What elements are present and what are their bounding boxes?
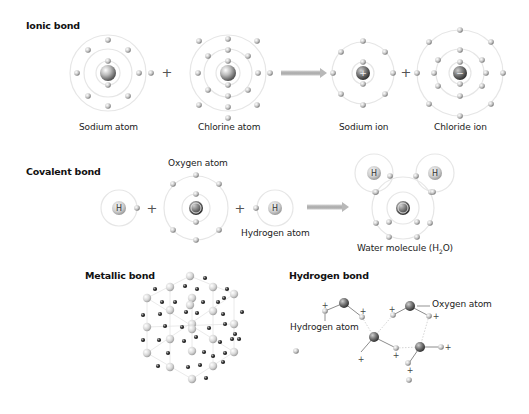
metal-ion xyxy=(209,362,217,370)
electron xyxy=(254,102,260,108)
water-molecule-label: Water molecule (H2O) xyxy=(357,243,453,255)
oxygen-atom xyxy=(369,332,379,342)
electron xyxy=(225,82,231,88)
nucleus-symbol: − xyxy=(456,68,464,78)
partial-positive-charge: + xyxy=(360,307,367,316)
hbond-hydrogen-atom-label: Hydrogen atom xyxy=(290,322,359,332)
partial-positive-charge: + xyxy=(445,343,452,352)
nucleus xyxy=(220,65,236,81)
electron xyxy=(386,234,392,240)
free-electron xyxy=(237,337,241,341)
free-electron xyxy=(202,350,206,354)
electron xyxy=(205,87,211,93)
oxygen-atom xyxy=(339,298,349,308)
water-molecule: HH xyxy=(355,154,454,240)
chloride-ion: − xyxy=(414,27,506,119)
metal-ion xyxy=(143,349,151,357)
covalent-bond-title: Covalent bond xyxy=(26,166,101,177)
electron xyxy=(338,49,344,55)
metal-ion xyxy=(166,335,174,343)
electron xyxy=(457,81,463,87)
electron xyxy=(255,70,261,76)
electron xyxy=(430,189,436,195)
electron xyxy=(435,83,441,89)
plus-sign: + xyxy=(235,201,246,216)
plus-sign: + xyxy=(147,201,158,216)
electron xyxy=(225,36,231,42)
reaction-arrow-icon xyxy=(307,202,349,212)
electron xyxy=(205,53,211,59)
free-electron xyxy=(141,338,145,342)
free-electron xyxy=(222,296,226,300)
water-label-suffix: O) xyxy=(443,243,453,253)
chlorine-atom-label: Chlorine atom xyxy=(198,122,260,132)
electron xyxy=(225,104,231,110)
electron xyxy=(85,93,91,99)
electron xyxy=(105,103,111,109)
electron xyxy=(488,101,494,107)
oxygen-atom xyxy=(415,342,425,352)
metal-ion xyxy=(143,294,151,302)
plus-sign: + xyxy=(401,65,412,80)
electron xyxy=(360,102,366,108)
electron xyxy=(426,101,432,107)
metal-ion xyxy=(209,283,217,291)
partial-positive-charge: + xyxy=(433,312,440,321)
hydrogen-atom xyxy=(438,344,444,350)
hydrogen-symbol: H xyxy=(371,169,377,178)
electron xyxy=(196,38,202,44)
metal-ion xyxy=(230,290,238,298)
free-electron xyxy=(240,310,244,314)
electron xyxy=(170,181,176,187)
metallic-bond-title: Metallic bond xyxy=(85,270,155,281)
metal-ion xyxy=(166,306,174,314)
partial-positive-charge: + xyxy=(322,301,329,310)
electron xyxy=(479,57,485,63)
free-electron xyxy=(173,300,177,304)
electron xyxy=(193,237,199,243)
free-electron xyxy=(180,325,184,329)
hydrogen-atom xyxy=(405,360,411,366)
oxygen-atom xyxy=(164,172,228,243)
electron xyxy=(193,172,199,178)
metal-ion xyxy=(230,348,238,356)
metal-ion xyxy=(209,307,217,315)
electron xyxy=(390,70,396,76)
oxygen-atom-label: Oxygen atom xyxy=(168,158,228,168)
sodium-atom-label: Sodium atom xyxy=(79,122,138,132)
ionic-bond-title: Ionic bond xyxy=(26,20,80,31)
electron xyxy=(85,47,91,53)
nucleus-symbol: H xyxy=(272,204,278,213)
electron xyxy=(225,115,231,121)
electron xyxy=(360,38,366,44)
free-electron xyxy=(223,351,227,355)
hydrogen-atom xyxy=(406,377,412,383)
plus-sign: + xyxy=(162,65,173,80)
electron xyxy=(267,70,273,76)
free-electron xyxy=(182,339,186,343)
chemical-bonds-diagram: +−++ HHHH++ ++++++++ Ionic bond Covalent… xyxy=(0,0,529,414)
electron xyxy=(483,70,489,76)
electron xyxy=(170,227,176,233)
free-electron xyxy=(195,311,199,315)
metal-ion xyxy=(188,347,196,355)
electron xyxy=(225,47,231,53)
metallic-bond-lattice xyxy=(141,272,244,383)
hydrogen-atom-label: Hydrogen atom xyxy=(241,228,310,238)
electron xyxy=(414,234,420,240)
free-electron xyxy=(207,326,211,330)
free-electron xyxy=(216,300,220,304)
free-electron xyxy=(225,287,229,291)
hydrogen-atom xyxy=(426,313,432,319)
free-electron xyxy=(204,376,208,380)
electron xyxy=(136,70,142,76)
arrow-shaft xyxy=(307,205,343,210)
free-electron xyxy=(223,322,227,326)
electron xyxy=(193,219,199,225)
hydrogen-symbol: H xyxy=(432,169,438,178)
electron xyxy=(457,59,463,65)
free-electron xyxy=(186,365,190,369)
metal-ion xyxy=(143,323,151,331)
free-electron xyxy=(153,287,157,291)
metal-ion xyxy=(166,283,174,291)
